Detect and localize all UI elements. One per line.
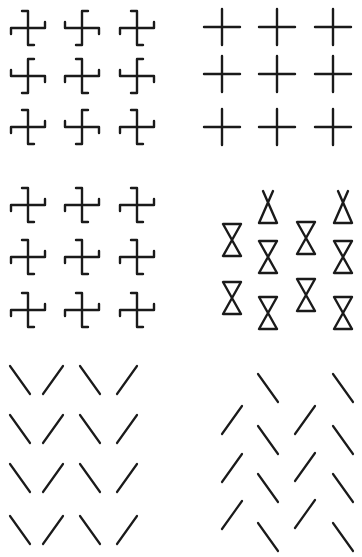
backslash-line-glyph xyxy=(80,415,100,443)
pinwheel-a-glyph xyxy=(120,240,154,274)
slash-line-glyph xyxy=(43,415,63,443)
slash-line-glyph xyxy=(117,516,137,544)
backslash-line-glyph xyxy=(258,374,278,402)
pinwheel-a-glyph xyxy=(11,11,45,45)
backslash-line-glyph xyxy=(10,516,30,544)
cross-glyph xyxy=(204,9,240,45)
figure-canvas xyxy=(0,0,362,557)
cross-glyph xyxy=(315,9,351,45)
pinwheel-b-glyph xyxy=(65,110,99,144)
cross-glyph xyxy=(315,56,351,92)
cross-glyph xyxy=(315,109,351,145)
backslash-line-glyph xyxy=(333,474,353,502)
pinwheel-a-glyph xyxy=(11,188,45,222)
backslash-line-glyph xyxy=(80,516,100,544)
cross-glyph xyxy=(259,9,295,45)
hourglass-open-glyph xyxy=(259,191,277,223)
hourglass-glyph xyxy=(297,222,315,254)
panel-herringbone-lines xyxy=(222,374,353,551)
cross-glyph xyxy=(204,109,240,145)
texture-figure xyxy=(0,0,362,557)
backslash-line-glyph xyxy=(258,426,278,454)
backslash-line-glyph xyxy=(10,464,30,492)
cross-glyph xyxy=(259,56,295,92)
hourglass-glyph xyxy=(223,224,241,256)
pinwheel-a-glyph xyxy=(120,11,154,45)
pinwheel-a-glyph xyxy=(65,240,99,274)
slash-line-glyph xyxy=(117,366,137,394)
slash-line-glyph xyxy=(117,464,137,492)
slash-line-glyph xyxy=(295,500,315,528)
cross-glyph xyxy=(259,109,295,145)
hourglass-glyph xyxy=(259,297,277,329)
pinwheel-a-glyph xyxy=(65,293,99,327)
pinwheel-b-glyph xyxy=(120,59,154,93)
pinwheel-a-glyph xyxy=(65,188,99,222)
cross-glyph xyxy=(204,56,240,92)
pinwheel-a-glyph xyxy=(11,293,45,327)
slash-line-glyph xyxy=(43,366,63,394)
backslash-line-glyph xyxy=(333,523,353,551)
backslash-line-glyph xyxy=(333,374,353,402)
backslash-line-glyph xyxy=(258,474,278,502)
slash-line-glyph xyxy=(222,454,242,482)
pinwheel-b-glyph xyxy=(11,59,45,93)
hourglass-glyph xyxy=(334,297,352,329)
pinwheel-a-glyph xyxy=(120,293,154,327)
pinwheel-a-glyph xyxy=(120,110,154,144)
backslash-line-glyph xyxy=(80,366,100,394)
slash-line-glyph xyxy=(222,501,242,529)
backslash-line-glyph xyxy=(258,523,278,551)
hourglass-glyph xyxy=(223,282,241,314)
hourglass-glyph xyxy=(334,241,352,273)
pinwheel-a-glyph xyxy=(120,188,154,222)
slash-line-glyph xyxy=(295,406,315,434)
pinwheel-a-glyph xyxy=(65,59,99,93)
pinwheel-b-glyph xyxy=(65,11,99,45)
hourglass-open-glyph xyxy=(334,191,352,223)
backslash-line-glyph xyxy=(333,426,353,454)
slash-line-glyph xyxy=(295,453,315,481)
panel-v-lines xyxy=(10,366,137,544)
panel-pinwheel-uniform xyxy=(11,188,154,327)
backslash-line-glyph xyxy=(10,415,30,443)
panel-plain-crosses xyxy=(204,9,351,145)
slash-line-glyph xyxy=(117,415,137,443)
pinwheel-a-glyph xyxy=(11,240,45,274)
hourglass-glyph xyxy=(259,241,277,273)
pinwheel-a-glyph xyxy=(11,110,45,144)
hourglass-glyph xyxy=(297,279,315,311)
slash-line-glyph xyxy=(43,516,63,544)
backslash-line-glyph xyxy=(80,464,100,492)
backslash-line-glyph xyxy=(10,366,30,394)
slash-line-glyph xyxy=(43,464,63,492)
panel-pinwheel-checkerboard xyxy=(11,11,154,144)
slash-line-glyph xyxy=(222,406,242,434)
panel-hourglasses xyxy=(223,191,352,329)
